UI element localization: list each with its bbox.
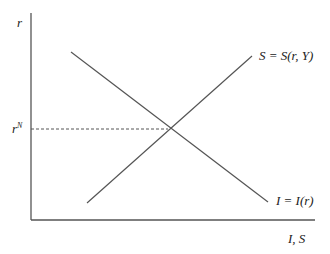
equilibrium-rate-label: rN [12,121,22,137]
x-axis-label: I, S [288,231,305,247]
saving-investment-diagram [0,0,330,254]
y-axis-label: r [17,15,22,31]
investment-curve-label: I = I(r) [276,193,314,209]
equilibrium-rate-sup: N [17,121,22,130]
investment-curve [71,52,268,202]
saving-curve-label: S = S(r, Y) [259,48,313,64]
